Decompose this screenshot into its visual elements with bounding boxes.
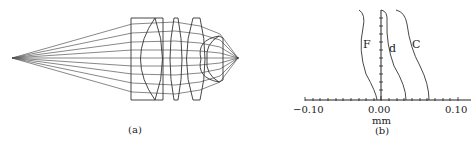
panel-b-caption: (b) <box>367 125 397 136</box>
element-3 <box>187 18 206 100</box>
panel-a-caption: (a) <box>120 124 150 135</box>
x-tick-right: 0.10 <box>445 104 467 115</box>
lens-layout-panel: (a) <box>0 0 250 145</box>
curve-C <box>396 10 429 100</box>
curve-label-F: F <box>363 38 371 51</box>
element-1 <box>131 18 163 100</box>
x-tick-center: 0.00 <box>368 104 390 115</box>
curve-label-C: C <box>412 38 420 51</box>
chromatic-aberration-chart: F d C −0.10 0.00 0.10 mm (b) <box>280 0 473 145</box>
image-point <box>237 57 239 59</box>
x-tick-left: −0.10 <box>293 104 324 115</box>
element-2 <box>170 18 182 100</box>
curve-F <box>359 10 377 100</box>
element-4 <box>200 36 219 82</box>
curve-label-d: d <box>389 42 396 55</box>
ray-bundle <box>12 22 238 94</box>
lens-elements <box>131 18 223 100</box>
curve-d <box>381 10 406 100</box>
